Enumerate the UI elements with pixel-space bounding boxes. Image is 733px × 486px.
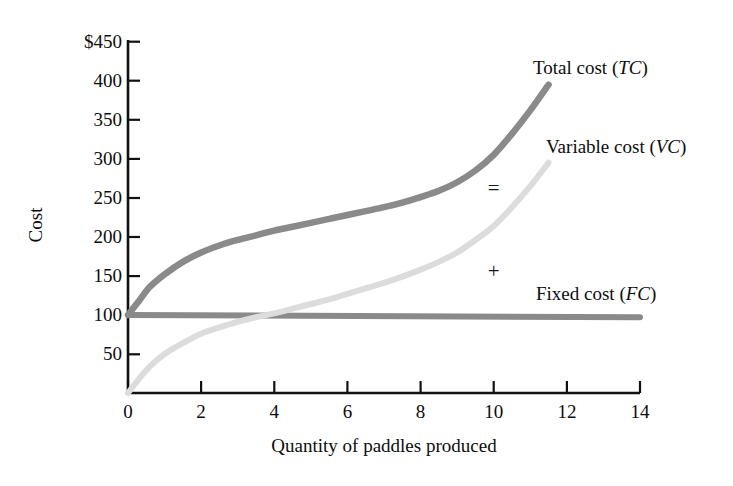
plus-symbol: +	[488, 259, 500, 283]
x-tick-label-0: 0	[123, 401, 133, 422]
chart-svg: $450 400 350 300 250 200 150 100 50 0 2 …	[0, 0, 733, 486]
variable-cost-label-close: )	[680, 136, 686, 158]
variable-cost-label: Variable cost (VC)	[546, 136, 686, 158]
fixed-cost-line	[128, 315, 640, 317]
x-axis-title: Quantity of paddles produced	[271, 435, 497, 456]
variable-cost-label-abbr: VC	[656, 136, 681, 157]
y-tick-label-250: 250	[94, 187, 123, 208]
y-tick-label-300: 300	[94, 148, 123, 169]
y-tick-label-350: 350	[94, 109, 123, 130]
total-cost-label-abbr: TC	[618, 57, 642, 78]
total-cost-label: Total cost (TC)	[533, 57, 648, 79]
variable-cost-label-text: Variable cost (	[546, 136, 656, 158]
equals-symbol: =	[488, 176, 500, 200]
fixed-cost-label-abbr: FC	[625, 283, 651, 304]
total-cost-label-close: )	[641, 57, 647, 79]
y-tick-label-450: $450	[84, 31, 122, 52]
y-tick-label-150: 150	[94, 265, 123, 286]
x-tick-label-6: 6	[343, 401, 353, 422]
cost-curves-chart: $450 400 350 300 250 200 150 100 50 0 2 …	[0, 0, 733, 486]
y-tick-label-100: 100	[94, 304, 123, 325]
y-tick-label-200: 200	[94, 226, 123, 247]
x-tick-label-14: 14	[631, 401, 651, 422]
y-tick-label-50: 50	[103, 343, 122, 364]
x-tick-label-2: 2	[196, 401, 206, 422]
x-tick-label-4: 4	[270, 401, 280, 422]
y-tick-label-400: 400	[94, 70, 123, 91]
x-tick-label-12: 12	[557, 401, 576, 422]
x-tick-label-10: 10	[484, 401, 503, 422]
x-tick-label-8: 8	[416, 401, 426, 422]
total-cost-label-text: Total cost (	[533, 57, 618, 79]
fixed-cost-label-close: )	[650, 283, 656, 305]
fixed-cost-label: Fixed cost (FC)	[536, 283, 656, 305]
fixed-cost-label-text: Fixed cost (	[536, 283, 626, 305]
y-axis-title: Cost	[25, 207, 46, 243]
